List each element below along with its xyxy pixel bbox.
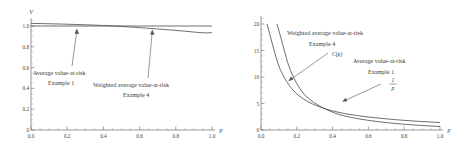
left-ytick-label-1: 0.2 bbox=[23, 106, 30, 112]
right-xtick-label-5: 1.0 bbox=[437, 133, 444, 139]
left-annot-average-line2: Example 1 bbox=[48, 80, 74, 86]
left-ytick-label-2: 0.4 bbox=[23, 85, 30, 91]
right-x-axis-label: p bbox=[447, 127, 451, 133]
left-annot-average-line1: Average value-at-risk bbox=[33, 70, 86, 76]
left-ytick-label-4: 0.8 bbox=[23, 44, 30, 50]
left-xtick-label-3: 0.6 bbox=[136, 133, 143, 139]
left-annotation-weighted-average-value-at-risk: Weighted average value-at-risk Example 4 bbox=[93, 29, 170, 98]
figure-container: 0 0.2 0.4 0.6 0.8 1.0 0.0 0.2 0.4 0.6 0.… bbox=[0, 0, 457, 149]
right-xtick-label-2: 0.4 bbox=[329, 133, 336, 139]
left-xtick-label-4: 0.8 bbox=[173, 133, 180, 139]
left-xtick-label-5: 1.0 bbox=[209, 133, 216, 139]
right-annot-weighted-line1: Weighted average value-at-risk bbox=[287, 30, 364, 36]
left-curve-weighted-average-value-at-risk bbox=[31, 23, 212, 32]
left-annotation-average-value-at-risk: Average value-at-risk Example 1 bbox=[33, 29, 86, 86]
right-annot-c-of-p-label: C(p) bbox=[332, 51, 342, 58]
right-ytick-label-3: 15 bbox=[254, 48, 260, 54]
right-arrowhead-average bbox=[342, 98, 347, 102]
left-y-axis-label: V bbox=[29, 9, 34, 15]
left-xtick-label-0: 0.0 bbox=[28, 133, 35, 139]
right-xtick-label-3: 0.6 bbox=[365, 133, 372, 139]
right-annot-average-line2: Example 1 bbox=[368, 69, 394, 75]
left-ytick-label-3: 0.6 bbox=[23, 65, 30, 71]
left-xtick-label-2: 0.4 bbox=[100, 133, 107, 139]
right-curve-c-of-p bbox=[267, 24, 440, 123]
right-annot-weighted-line2: Example 4 bbox=[309, 41, 335, 47]
left-annot-weighted-line1: Weighted average value-at-risk bbox=[93, 82, 170, 88]
right-annot-one-over-p-fraction: 1 p bbox=[390, 77, 397, 91]
fraction-denominator: p bbox=[391, 85, 395, 91]
right-ytick-label-4: 20 bbox=[254, 21, 260, 27]
left-arrowhead-weighted bbox=[150, 29, 154, 34]
right-chart-svg: 0 5 10 15 20 0.0 0.2 0.4 0.6 0.8 1.0 p W… bbox=[229, 0, 457, 149]
right-xtick-label-1: 0.2 bbox=[294, 133, 301, 139]
right-xtick-label-0: 0.0 bbox=[258, 133, 265, 139]
right-annotation-average-value-at-risk: Average value-at-risk Example 1 1 p bbox=[342, 58, 406, 102]
left-ytick-label-5: 1.0 bbox=[23, 23, 30, 29]
right-annotation-weighted-average-value-at-risk: Weighted average value-at-risk Example 4… bbox=[287, 30, 364, 81]
fraction-numerator: 1 bbox=[392, 77, 395, 83]
left-annot-weighted-line2: Example 4 bbox=[123, 92, 149, 98]
right-arrowhead-weighted bbox=[288, 76, 293, 81]
right-ytick-label-2: 10 bbox=[254, 74, 260, 80]
left-xtick-label-1: 0.2 bbox=[64, 133, 71, 139]
left-arrowhead-average bbox=[75, 29, 79, 34]
right-ytick-label-1: 5 bbox=[256, 101, 259, 107]
chart-panel-right: 0 5 10 15 20 0.0 0.2 0.4 0.6 0.8 1.0 p W… bbox=[229, 0, 457, 149]
right-annot-average-line1: Average value-at-risk bbox=[353, 58, 406, 64]
left-x-axis-label: p bbox=[219, 127, 223, 133]
right-curve-one-over-p bbox=[277, 24, 440, 127]
right-y-minor-ticks bbox=[261, 19, 263, 125]
right-xtick-label-4: 0.8 bbox=[401, 133, 408, 139]
left-chart-svg: 0 0.2 0.4 0.6 0.8 1.0 0.0 0.2 0.4 0.6 0.… bbox=[0, 0, 229, 149]
chart-panel-left: 0 0.2 0.4 0.6 0.8 1.0 0.0 0.2 0.4 0.6 0.… bbox=[0, 0, 229, 149]
